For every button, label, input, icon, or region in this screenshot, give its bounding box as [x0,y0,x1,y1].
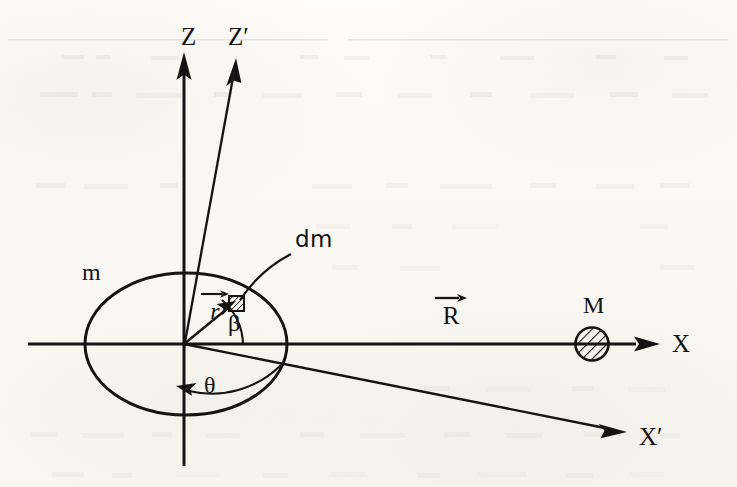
axis-label-x: X [672,331,690,356]
vector-label-r: r [200,288,230,323]
angle-label-theta: θ [204,373,216,397]
vector-arrow-accent-r [200,288,230,299]
vector-label-R: R [434,292,468,328]
vector-arrow-accent-R [434,292,468,303]
figure-canvas: Z Z′ X X′ m M dm β θ r R [0,0,737,487]
body-label-m: m [82,260,101,284]
axis-label-z: Z [181,24,196,49]
axis-x-line [28,337,660,352]
axis-label-x-prime: X′ [639,424,663,449]
vector-symbol-R: R [434,303,468,328]
diagram-line-art [0,0,737,487]
axis-x-prime-line [184,344,627,438]
element-label-dm: dm [295,228,333,251]
vector-symbol-r: r [200,299,230,323]
angle-theta-arc [176,365,281,396]
body-label-M: M [583,293,604,317]
axis-label-z-prime: Z′ [228,24,249,49]
element-dm-square [229,296,244,311]
body-M-circle [576,328,609,361]
axis-z-line [177,52,192,466]
dm-leader-line [240,254,291,300]
